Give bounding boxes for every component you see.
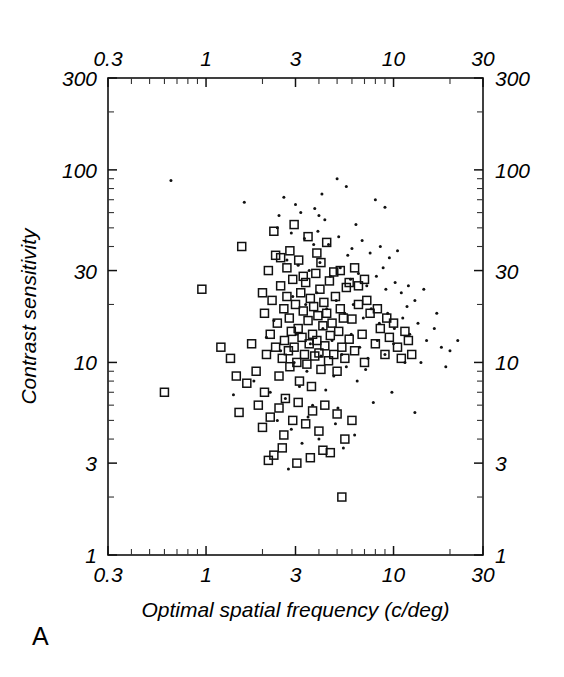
data-point-dot: [303, 237, 306, 240]
axes-layer: [108, 78, 483, 555]
data-point-square: [268, 296, 276, 304]
data-point-dot: [370, 307, 373, 310]
y-axis-right-label: 1: [495, 544, 507, 567]
data-point-dot: [345, 365, 348, 368]
data-point-dot: [290, 232, 293, 235]
data-point-square: [351, 264, 359, 272]
data-point-dot: [278, 214, 281, 217]
data-point-dot: [350, 333, 353, 336]
y-axis-left-label: 300: [62, 67, 97, 90]
data-point-square: [280, 337, 288, 345]
data-point-dot: [386, 312, 389, 315]
data-point-dot: [313, 207, 316, 210]
data-point-dot: [350, 247, 353, 250]
data-point-dot: [379, 245, 382, 248]
data-point-dot: [433, 327, 436, 330]
data-point-square: [278, 354, 286, 362]
data-point-square: [310, 303, 318, 311]
y-axis-left-label: 100: [62, 159, 97, 182]
data-point-square: [339, 314, 347, 322]
data-point-square: [385, 333, 393, 341]
data-point-dot: [265, 336, 268, 339]
data-point-dot: [304, 303, 307, 306]
panel-label: A: [32, 622, 49, 650]
data-point-dot: [425, 339, 428, 342]
series-open-square: [160, 221, 415, 501]
data-points-layer: [160, 177, 459, 501]
data-point-dot: [448, 349, 451, 352]
data-point-square: [335, 327, 343, 335]
data-point-dot: [307, 416, 310, 419]
data-point-dot: [392, 342, 395, 345]
data-point-dot: [419, 361, 422, 364]
data-point-dot: [354, 223, 357, 226]
x-axis-top-label: 3: [290, 47, 302, 70]
data-point-dot: [403, 361, 406, 364]
data-point-square: [404, 337, 412, 345]
data-point-square: [320, 298, 328, 306]
data-point-dot: [335, 299, 338, 302]
data-point-dot: [299, 211, 302, 214]
data-point-square: [286, 247, 294, 255]
data-point-dot: [382, 266, 385, 269]
data-point-dot: [305, 370, 308, 373]
data-point-dot: [294, 203, 297, 206]
data-point-square: [272, 343, 280, 351]
data-point-square: [321, 401, 329, 409]
data-point-square: [306, 454, 314, 462]
data-point-square: [290, 221, 298, 229]
data-point-dot: [318, 261, 321, 264]
data-point-square: [277, 254, 285, 262]
data-point-square: [333, 410, 341, 418]
data-point-square: [270, 451, 278, 459]
data-point-dot: [309, 342, 312, 345]
data-point-square: [295, 256, 303, 264]
data-point-dot: [334, 422, 337, 425]
x-axis-title: Optimal spatial frequency (c/deg): [141, 598, 449, 621]
data-point-dot: [325, 307, 328, 310]
data-point-dot: [317, 214, 320, 217]
data-point-square: [314, 312, 322, 320]
x-axis-bottom-label: 1: [200, 563, 212, 586]
data-point-square: [317, 365, 325, 373]
data-point-square: [283, 264, 291, 272]
data-point-dot: [413, 411, 416, 414]
data-point-dot: [301, 442, 304, 445]
data-point-dot: [312, 243, 315, 246]
data-point-dot: [375, 275, 378, 278]
data-point-dot: [390, 391, 393, 394]
data-point-square: [235, 408, 243, 416]
data-point-square: [275, 404, 283, 412]
data-point-dot: [323, 218, 326, 221]
data-point-dot: [365, 284, 368, 287]
data-point-square: [338, 343, 346, 351]
data-point-square: [160, 388, 168, 396]
data-point-square: [280, 305, 288, 313]
y-axis-right-label: 300: [495, 67, 530, 90]
data-point-dot: [327, 243, 330, 246]
data-point-square: [328, 319, 336, 327]
data-point-square: [348, 315, 356, 323]
data-point-dot: [336, 406, 339, 409]
data-point-square: [325, 277, 333, 285]
data-point-square: [312, 269, 320, 277]
data-point-square: [285, 314, 293, 322]
data-point-dot: [356, 380, 359, 383]
x-axis-bottom-label: 10: [382, 563, 406, 586]
data-point-dot: [357, 272, 360, 275]
data-point-square: [289, 416, 297, 424]
data-point-square: [275, 372, 283, 380]
data-point-square: [283, 293, 291, 301]
x-axis-bottom-label: 30: [471, 563, 495, 586]
data-point-square: [297, 289, 305, 297]
data-point-dot: [343, 312, 346, 315]
data-point-dot: [396, 249, 399, 252]
data-point-square: [341, 435, 349, 443]
data-point-dot: [388, 256, 391, 259]
x-axis-top-label: 10: [382, 47, 406, 70]
data-point-dot: [378, 322, 381, 325]
y-axis-left-label: 30: [74, 260, 98, 283]
data-point-dot: [285, 259, 288, 262]
data-point-dot: [358, 346, 361, 349]
scatter-plot: 0.31310300.31310303001003010313001003010…: [0, 0, 564, 677]
